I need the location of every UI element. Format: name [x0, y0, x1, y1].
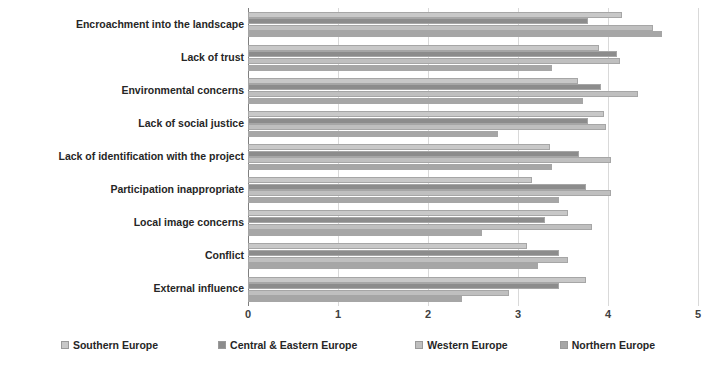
bar: [248, 91, 638, 97]
bar: [248, 197, 559, 203]
y-axis-label: Lack of trust: [6, 51, 244, 63]
bar: [248, 177, 532, 183]
x-axis-tick-label: 1: [323, 308, 353, 320]
bar: [248, 157, 611, 163]
y-axis-label: Lack of social justice: [6, 117, 244, 129]
legend-swatch-icon: [415, 341, 423, 349]
y-axis-label: External influence: [6, 282, 244, 294]
bar: [248, 243, 527, 249]
bar: [248, 131, 498, 137]
bar: [248, 118, 588, 124]
x-axis-tick-label: 5: [683, 308, 713, 320]
x-axis-tick-label: 0: [233, 308, 263, 320]
bar: [248, 25, 653, 31]
plot-area: [248, 8, 698, 306]
x-axis-tick-labels: 012345: [0, 308, 716, 328]
bar: [248, 230, 482, 236]
bar: [248, 18, 588, 24]
bar-group: [248, 74, 698, 107]
bar: [248, 65, 552, 71]
bar: [248, 151, 579, 157]
bar: [248, 12, 622, 18]
bar: [248, 290, 509, 296]
legend-item[interactable]: Western Europe: [415, 339, 507, 351]
bar-group: [248, 107, 698, 140]
x-axis-tick-label: 3: [503, 308, 533, 320]
y-axis-label: Conflict: [6, 249, 244, 261]
bar: [248, 51, 617, 57]
bar: [248, 224, 592, 230]
bar: [248, 58, 620, 64]
bar-group: [248, 273, 698, 306]
y-axis-label: Local image concerns: [6, 216, 244, 228]
bar: [248, 210, 568, 216]
bar: [248, 45, 599, 51]
legend-label: Northern Europe: [572, 339, 655, 351]
bar-group: [248, 207, 698, 240]
bar: [248, 111, 604, 117]
bar: [248, 190, 611, 196]
bar: [248, 263, 538, 269]
legend-item[interactable]: Southern Europe: [61, 339, 158, 351]
legend-label: Southern Europe: [73, 339, 158, 351]
bar-group: [248, 41, 698, 74]
bar: [248, 98, 583, 104]
bar-group: [248, 174, 698, 207]
bar: [248, 144, 550, 150]
chart-legend: Southern EuropeCentral & Eastern EuropeW…: [0, 336, 716, 354]
x-axis-tick-label: 4: [593, 308, 623, 320]
bar-group: [248, 140, 698, 173]
bar-chart: Encroachment into the landscapeLack of t…: [0, 0, 716, 374]
bar: [248, 217, 545, 223]
legend-swatch-icon: [218, 341, 226, 349]
legend-swatch-icon: [61, 341, 69, 349]
bar: [248, 283, 559, 289]
legend-label: Central & Eastern Europe: [230, 339, 357, 351]
bar: [248, 31, 662, 37]
bar: [248, 78, 578, 84]
gridline: [698, 8, 699, 306]
y-axis-label: Encroachment into the landscape: [6, 18, 244, 30]
legend-label: Western Europe: [427, 339, 507, 351]
bar: [248, 257, 568, 263]
bar: [248, 84, 601, 90]
bar: [248, 164, 552, 170]
bar: [248, 124, 606, 130]
y-axis-label: Participation inappropriate: [6, 183, 244, 195]
legend-item[interactable]: Central & Eastern Europe: [218, 339, 357, 351]
bar: [248, 277, 586, 283]
bar-group: [248, 8, 698, 41]
legend-swatch-icon: [560, 341, 568, 349]
legend-item[interactable]: Northern Europe: [560, 339, 655, 351]
x-axis-tick-label: 2: [413, 308, 443, 320]
bar: [248, 250, 559, 256]
bar-group: [248, 240, 698, 273]
bar: [248, 296, 462, 302]
y-axis-label: Lack of identification with the project: [6, 150, 244, 162]
y-axis-category-labels: Encroachment into the landscapeLack of t…: [0, 8, 244, 306]
y-axis-label: Environmental concerns: [6, 84, 244, 96]
bar: [248, 184, 586, 190]
